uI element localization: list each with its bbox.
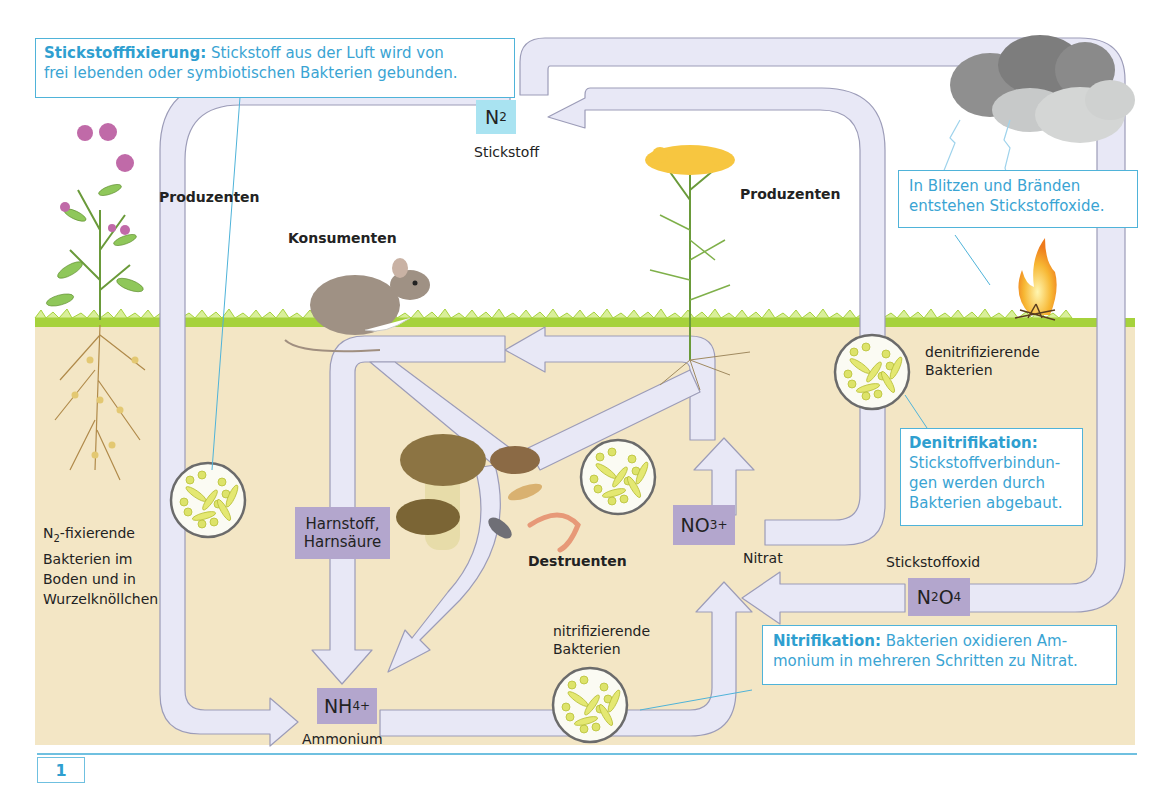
figure-rule [37,753,1137,755]
formula-subscript: 3 [710,518,718,532]
compound-text: Harnsäure [304,533,381,551]
formula-base: N [917,586,931,608]
compound-text: Harnstoff, [306,515,380,533]
label-decomposers: Destruenten [528,552,627,570]
callout-heading: Stickstofffixierung: [44,44,206,62]
figure-number: 1 [37,757,85,783]
callout-heading: Denitrifikation: [909,434,1038,452]
grass-strip [35,309,1135,327]
formula-base: NO [681,514,710,536]
callout-heading: Nitrifikation: [773,632,881,650]
compound-n2o4: N2O4 [908,578,970,616]
bacteria-fixing-icon [171,463,245,537]
formula-subscript: 4 [954,590,962,604]
label-producers-right: Produzenten [740,185,841,203]
label-text: denitrifizierende [925,344,1040,360]
callout-text: Bakterien abgebaut. [909,494,1062,512]
label-text: N [43,525,53,541]
label-text: Wurzelknöllchen [43,591,158,607]
formula-subscript: 2 [931,590,939,604]
label-denitrifying-bacteria: denitrifizierende Bakterien [925,343,1040,379]
snail-icon [490,446,540,474]
bacteria-denitrifying-icon [835,335,909,409]
label-stickstoff: Stickstoff [474,143,539,161]
bacteria-soil-icon [581,440,655,514]
callout-nitrogen-fixation: Stickstofffixierung: Stickstoff aus der … [35,38,515,98]
formula-subscript: 2 [499,110,507,124]
label-text: Bakterien im [43,551,133,567]
callout-nitrification: Nitrifikation: Bakterien oxidieren Am- m… [762,625,1117,685]
compound-no3: NO3+ [673,505,735,545]
compound-n2: N2 [476,100,516,134]
label-nitrat: Nitrat [743,549,783,567]
label-fixing-bacteria: N2-fixierende Bakterien im Boden und in … [43,523,158,609]
fire-icon [1015,238,1057,320]
callout-text: In Blitzen und Bränden [909,177,1080,195]
formula-base: N [485,106,499,128]
callout-text: Bakterien oxidieren Am- [881,632,1067,650]
callout-text: Stickstoffverbindun- [909,454,1060,472]
label-text: -fixierende [60,525,135,541]
label-nitrifying-bacteria: nitrifizierende Bakterien [553,622,650,658]
formula-superscript: + [360,699,370,713]
compound-nh4: NH4+ [317,688,377,724]
formula-base: NH [324,695,353,717]
label-text: nitrifizierende [553,623,650,639]
label-text: Bakterien [925,362,993,378]
formula-subscript: 4 [352,699,360,713]
callout-text: entstehen Stickstoffoxide. [909,197,1105,215]
compound-urea-uric-acid: Harnstoff, Harnsäure [295,507,390,559]
label-consumers: Konsumenten [288,229,397,247]
callout-text: monium in mehreren Schritten zu Nitrat. [773,652,1078,670]
label-stickstoffoxid: Stickstoffoxid [886,553,980,571]
callout-text: frei lebenden oder symbiotischen Bakteri… [44,64,458,82]
callout-lightning-fire: In Blitzen und Bränden entstehen Stickst… [898,170,1138,228]
nitrogen-cycle-diagram: Stickstofffixierung: Stickstoff aus der … [0,0,1163,790]
bacteria-nitrifying-icon [553,668,627,742]
callout-text: gen werden durch [909,474,1045,492]
formula-base: O [939,586,954,608]
label-ammonium: Ammonium [302,730,383,748]
callout-text: Stickstoff aus der Luft wird von [206,44,444,62]
label-text: Boden und in [43,571,136,587]
formula-superscript: + [717,518,727,532]
label-text: Bakterien [553,641,621,657]
callout-denitrification: Denitrifikation: Stickstoffverbindun- ge… [900,428,1083,526]
label-producers-left: Produzenten [159,188,260,206]
